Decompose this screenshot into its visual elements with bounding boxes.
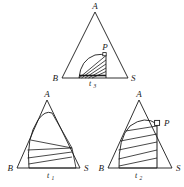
angle-marker-t2 [155,120,160,125]
base-label-subscript-t2: 2 [140,175,143,181]
vertex-label-b-t2: B [99,163,105,173]
figure-background [0,0,184,187]
vertex-label-a-t3: A [91,1,98,11]
point-label-p-t3: P [101,42,108,52]
geometry-figure: A B S P t 3 A B S t [0,0,184,187]
vertex-label-s-t3: S [131,73,136,83]
figure-canvas: A B S P t 3 A B S t [0,0,184,187]
base-label-subscript-t1: 1 [52,175,55,181]
vertex-label-b-t3: B [53,73,59,83]
vertex-label-a-t2: A [135,89,142,99]
angle-marker-t3 [103,53,106,56]
point-label-p-t2: P [163,118,170,128]
vertex-label-s-t1: S [84,163,89,173]
vertex-label-a-t1: A [43,89,50,99]
base-label-subscript-t3: 3 [93,83,97,89]
vertex-label-s-t2: S [176,163,181,173]
vertex-label-b-t1: B [8,163,14,173]
